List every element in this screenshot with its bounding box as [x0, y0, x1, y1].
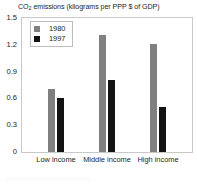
- bar-1997-low-income[interactable]: [57, 98, 64, 152]
- y-axis: 1.51.20.90.60.30: [0, 17, 19, 153]
- bar-group: [99, 18, 115, 152]
- y-axis-tick-label: 1.5: [6, 14, 17, 22]
- bar-1980-middle-income[interactable]: [99, 35, 106, 152]
- x-axis-tick-label: High income: [137, 155, 178, 165]
- page-artifact: [6, 177, 90, 181]
- y-axis-tick-label: 1.2: [6, 41, 17, 49]
- chart-title-prefix: CO: [18, 3, 29, 11]
- chart-title-subscript: 2: [29, 5, 32, 11]
- chart-figure: CO2 emissions (kilograms per PPP $ of GD…: [0, 0, 197, 185]
- legend-swatch-icon: [34, 26, 40, 32]
- legend-label: 1980: [49, 25, 65, 33]
- y-axis-tick-label: 0: [13, 148, 17, 156]
- bar-1980-low-income[interactable]: [48, 89, 55, 152]
- y-axis-tick-label: 0.9: [6, 68, 17, 76]
- y-axis-tick-label: 0.3: [6, 121, 17, 129]
- bar-1980-high-income[interactable]: [150, 44, 157, 152]
- x-axis-tick-label: Middle income: [83, 155, 131, 165]
- chart-legend: 19801997: [30, 21, 73, 47]
- chart-title: CO2 emissions (kilograms per PPP $ of GD…: [18, 3, 196, 12]
- legend-item[interactable]: 1997: [34, 34, 65, 44]
- x-axis: Low incomeMiddle incomeHigh income: [22, 155, 192, 167]
- x-axis-tick-label: Low income: [36, 155, 75, 165]
- chart-title-rest: emissions (kilograms per PPP $ of GDP): [32, 3, 160, 11]
- bar-group: [150, 18, 166, 152]
- y-axis-tick-label: 0.6: [6, 94, 17, 102]
- legend-swatch-icon: [34, 36, 40, 42]
- bar-1997-high-income[interactable]: [159, 107, 166, 152]
- legend-label: 1997: [49, 35, 65, 43]
- legend-item[interactable]: 1980: [34, 24, 65, 34]
- bar-1997-middle-income[interactable]: [108, 80, 115, 152]
